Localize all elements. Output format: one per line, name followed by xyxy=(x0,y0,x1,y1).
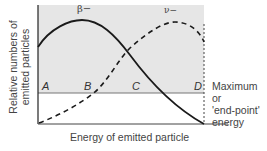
annotation-line-4: energy xyxy=(212,116,260,128)
y-label-line-1: Relative numbers of xyxy=(7,17,19,117)
annotation-line-3: 'end-point' xyxy=(212,104,260,116)
y-axis-label: Relative numbers of emitted particles xyxy=(7,17,31,117)
point-b: B xyxy=(84,80,91,92)
annotation-line-2: or xyxy=(212,92,260,104)
nu-label: ν− xyxy=(164,5,177,15)
beta-label: β− xyxy=(77,3,91,14)
end-point-annotation: Maximum or 'end-point' energy xyxy=(212,80,260,128)
point-c: C xyxy=(132,80,140,92)
annotation-line-1: Maximum xyxy=(212,80,260,92)
x-axis-label: Energy of emitted particle xyxy=(70,131,189,143)
plot-area xyxy=(0,0,267,151)
y-label-line-2: emitted particles xyxy=(19,17,31,117)
point-d: D xyxy=(194,80,202,92)
shaded-region xyxy=(38,5,204,93)
point-a: A xyxy=(42,80,49,92)
